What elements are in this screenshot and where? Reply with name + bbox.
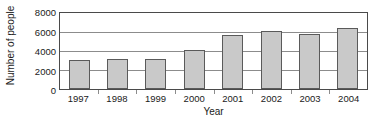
bar: [337, 28, 358, 89]
bar: [299, 34, 320, 89]
y-tick-label: 2000: [16, 66, 56, 75]
x-tick-label: 2003: [291, 93, 330, 105]
bar-slot: [290, 13, 328, 89]
x-axis-title: Year: [59, 106, 368, 117]
x-tick-label: 2000: [175, 93, 214, 105]
x-tick-label: 2002: [252, 93, 291, 105]
x-tick-label: 1997: [59, 93, 98, 105]
y-tick-label: 6000: [16, 27, 56, 36]
bar-chart: Number of people 8000 6000 4000 2000 0 1…: [0, 0, 378, 123]
bar-slot: [214, 13, 252, 89]
x-axis-tick-labels: 19971998199920002001200220032004: [59, 93, 368, 105]
bar-slot: [329, 13, 367, 89]
bar-slot: [137, 13, 175, 89]
bar: [184, 50, 205, 89]
y-axis-tick-labels: 8000 6000 4000 2000 0: [16, 12, 56, 90]
bar-series: [60, 13, 367, 89]
bar-slot: [175, 13, 213, 89]
x-tick-label: 1999: [136, 93, 175, 105]
plot-area: [59, 12, 368, 90]
x-tick-label: 1998: [98, 93, 137, 105]
y-tick-label: 8000: [16, 8, 56, 17]
bar: [69, 60, 90, 89]
x-tick-label: 2001: [214, 93, 253, 105]
bar-slot: [98, 13, 136, 89]
bar-slot: [60, 13, 98, 89]
bar-slot: [252, 13, 290, 89]
x-tick-label: 2004: [329, 93, 368, 105]
bar: [222, 35, 243, 89]
bar: [145, 59, 166, 89]
y-tick-label: 4000: [16, 47, 56, 56]
y-tick-label: 0: [16, 86, 56, 95]
bar: [261, 31, 282, 89]
y-axis-title: Number of people: [5, 3, 16, 89]
bar: [107, 59, 128, 89]
